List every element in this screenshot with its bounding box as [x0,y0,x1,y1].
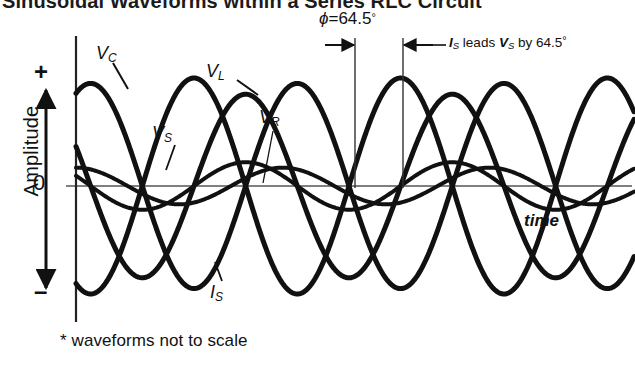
leads-note-voltage: V [499,35,508,50]
label-is-sub: S [215,290,223,304]
leads-note-suffix: by 64.5 [514,35,562,50]
label-vc-sub: C [108,51,117,65]
amplitude-minus-marker: – [34,279,47,303]
phase-angle-annotation: ϕ=64.5° [319,10,376,27]
leader-vs [166,145,175,170]
label-is: IS [210,283,223,303]
figure-footnote: * waveforms not to scale [60,332,248,349]
leads-note: IS leads VS by 64.5° [449,35,567,51]
figure-canvas: Sinusoidal Waveforms within a Series RLC… [0,0,635,367]
phi-equals: = [328,9,338,28]
label-vs-name: V [152,123,164,143]
label-vl-name: V [206,61,218,81]
label-vl: VL [206,62,225,82]
leads-note-degree: ° [562,34,566,46]
time-axis-label: time [524,212,559,229]
leader-vc [113,63,128,89]
label-vs-sub: S [164,131,172,145]
label-vr: VR [259,108,280,128]
figure-heading: Sinusoidal Waveforms within a Series RLC… [2,0,482,11]
label-vc: VC [96,44,117,64]
label-vr-name: V [259,107,271,127]
label-vc-name: V [96,43,108,63]
label-vs: VS [152,124,172,144]
amplitude-zero-marker: 0 [33,172,45,194]
leader-vr [263,131,273,183]
label-vl-sub: L [218,69,225,83]
phi-value: 64.5 [338,9,371,28]
leads-note-mid: leads [459,35,499,50]
amplitude-plus-marker: + [34,60,48,84]
phi-degree: ° [372,11,376,23]
label-vr-sub: R [271,115,280,129]
